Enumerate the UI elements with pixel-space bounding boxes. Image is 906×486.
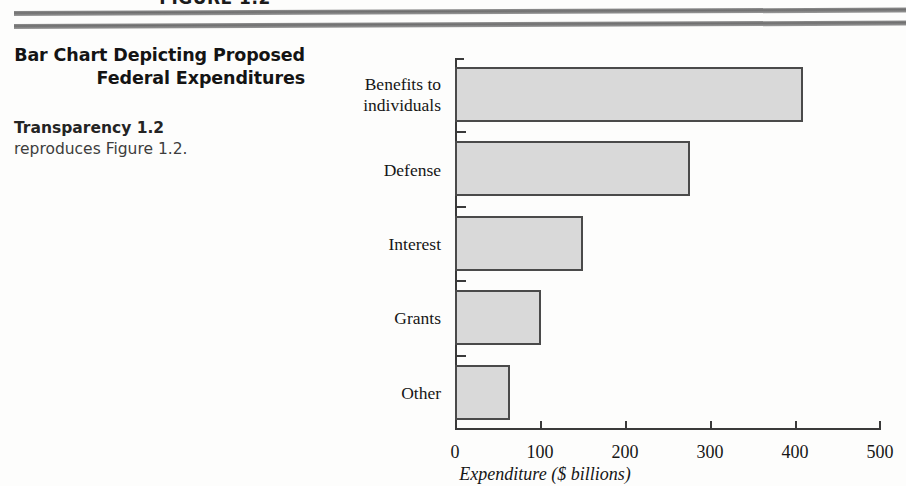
category-label: Interest	[389, 233, 441, 254]
x-axis-tick-label: 200	[612, 442, 639, 463]
chart-plot-area: Benefits to individualsDefenseInterestGr…	[455, 58, 881, 430]
figure-number-label: FIGURE 1.2	[0, 0, 430, 8]
x-axis-tick-label: 100	[527, 442, 554, 463]
bar-defense	[455, 141, 690, 196]
sidebar-body-lead: Transparency 1.2	[14, 119, 164, 137]
figure-page: FIGURE 1.2 Bar Chart Depicting Proposed …	[0, 0, 906, 486]
x-axis-tick-label: 500	[867, 442, 894, 463]
sidebar-heading: Bar Chart Depicting Proposed Federal Exp…	[8, 44, 308, 90]
bar-row: Grants	[455, 281, 881, 355]
bar-benefits-to-individuals	[455, 67, 803, 122]
x-axis-tick-label: 400	[782, 442, 809, 463]
x-axis-tick	[710, 421, 712, 430]
bar-chart: Benefits to individualsDefenseInterestGr…	[332, 52, 898, 472]
x-axis-title: Expenditure ($ billions)	[332, 464, 758, 485]
header-rule-bottom	[14, 21, 906, 29]
x-axis-tick	[795, 421, 797, 430]
x-axis-tick	[625, 421, 627, 430]
category-label: Benefits to individuals	[321, 74, 441, 116]
bar-row: Other	[455, 356, 881, 430]
bar-row: Defense	[455, 132, 881, 206]
bar-row: Benefits to individuals	[455, 58, 881, 132]
category-label: Defense	[384, 159, 441, 180]
category-label: Grants	[394, 308, 441, 329]
bar-row: Interest	[455, 207, 881, 281]
category-label: Other	[401, 382, 441, 403]
bar-grants	[455, 290, 541, 345]
sidebar-body: Transparency 1.2 reproduces Figure 1.2.	[8, 118, 229, 160]
bar-interest	[455, 216, 583, 271]
x-axis-tick-label: 0	[451, 442, 460, 463]
bar-other	[455, 365, 510, 420]
sidebar-text-column: Bar Chart Depicting Proposed Federal Exp…	[8, 44, 308, 160]
sidebar-body-rest: reproduces Figure 1.2.	[14, 140, 187, 158]
x-axis-tick	[540, 421, 542, 430]
x-axis-tick-label: 300	[697, 442, 724, 463]
